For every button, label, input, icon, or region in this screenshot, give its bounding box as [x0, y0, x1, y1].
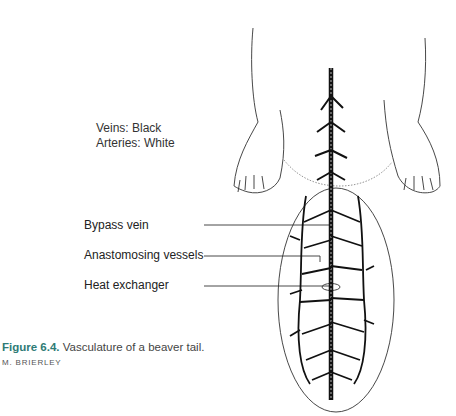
figure-caption: Figure 6.4. Vasculature of a beaver tail… — [2, 341, 204, 353]
legend-veins: Veins: Black — [96, 121, 175, 136]
label-anastomosing-vessels: Anastomosing vessels — [84, 248, 203, 262]
label-heat-exchanger: Heat exchanger — [84, 278, 169, 292]
vessel-color-legend: Veins: Black Arteries: White — [96, 121, 175, 151]
beaver-tail-illustration — [0, 0, 456, 416]
figure-credit: M. BRIERLEY — [2, 358, 61, 367]
legend-arteries: Arteries: White — [96, 136, 175, 151]
figure-number: Figure 6.4. — [2, 341, 60, 353]
caption-text: Vasculature of a beaver tail. — [60, 341, 205, 353]
label-bypass-vein: Bypass vein — [84, 218, 149, 232]
